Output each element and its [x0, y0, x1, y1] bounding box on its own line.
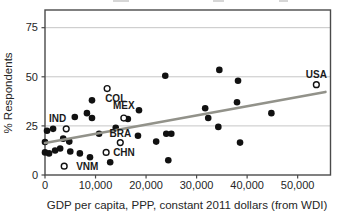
- data-point-open-bra: [117, 140, 123, 146]
- data-point-filled: [215, 124, 222, 131]
- data-point-filled: [107, 159, 114, 166]
- data-point-filled: [234, 99, 241, 106]
- data-point-filled: [216, 67, 223, 74]
- data-point-filled: [165, 157, 172, 164]
- data-point-open-chn: [103, 150, 109, 156]
- data-point-filled: [50, 126, 57, 133]
- data-point-filled: [46, 150, 53, 157]
- data-point-filled: [89, 115, 96, 122]
- data-point-filled: [168, 130, 175, 137]
- country-label-chn: CHN: [113, 147, 135, 158]
- y-axis-title: % Respondents: [2, 52, 14, 133]
- data-point-filled: [87, 154, 94, 161]
- data-point-open-col: [104, 86, 110, 92]
- data-point-filled: [84, 110, 91, 117]
- y-tick-label: 75: [26, 21, 38, 33]
- data-point-filled: [89, 97, 96, 104]
- data-point-open-ind: [63, 126, 69, 132]
- y-axis: 0255075: [26, 21, 45, 180]
- data-point-filled: [237, 139, 244, 146]
- data-point-filled: [235, 77, 242, 84]
- data-points: [42, 67, 275, 166]
- data-point-filled: [162, 73, 169, 80]
- x-tick-label: 10,000: [79, 179, 113, 191]
- y-tick-label: 25: [26, 120, 38, 132]
- x-tick-label: 20,000: [129, 179, 163, 191]
- data-point-filled: [136, 107, 143, 114]
- country-label-ind: IND: [49, 113, 66, 124]
- y-tick-label: 0: [32, 169, 38, 181]
- data-point-filled: [67, 148, 74, 155]
- x-axis: 010,00020,00030,00040,00050,000: [42, 175, 315, 191]
- data-point-open-usa: [313, 82, 319, 88]
- country-label-mex: MEX: [113, 100, 135, 111]
- data-point-filled: [268, 110, 275, 117]
- data-point-filled: [153, 138, 160, 145]
- x-tick-label: 30,000: [180, 179, 214, 191]
- data-point-filled: [77, 150, 84, 157]
- data-point-open-vnm: [61, 163, 67, 169]
- scatter-plot: 010,00020,00030,00040,00050,000 0255075 …: [0, 0, 337, 218]
- country-label-bra: BRA: [109, 128, 131, 139]
- x-tick-label: 40,000: [230, 179, 264, 191]
- x-axis-title: GDP per capita, PPP, constant 2011 dolla…: [47, 199, 328, 211]
- data-point-filled: [44, 128, 51, 135]
- data-point-filled: [72, 114, 79, 121]
- data-point-filled: [135, 132, 142, 139]
- data-point-filled: [202, 105, 209, 112]
- trend-line: [45, 92, 325, 143]
- country-label-vnm: VNM: [76, 161, 98, 172]
- x-tick-label: 50,000: [281, 179, 315, 191]
- data-point-open-mex: [121, 115, 127, 121]
- data-point-filled: [205, 115, 212, 122]
- country-label-usa: USA: [306, 69, 327, 80]
- data-point-filled: [57, 145, 64, 152]
- y-tick-label: 50: [26, 71, 38, 83]
- x-tick-label: 0: [42, 179, 48, 191]
- plot-area-border: [45, 10, 331, 175]
